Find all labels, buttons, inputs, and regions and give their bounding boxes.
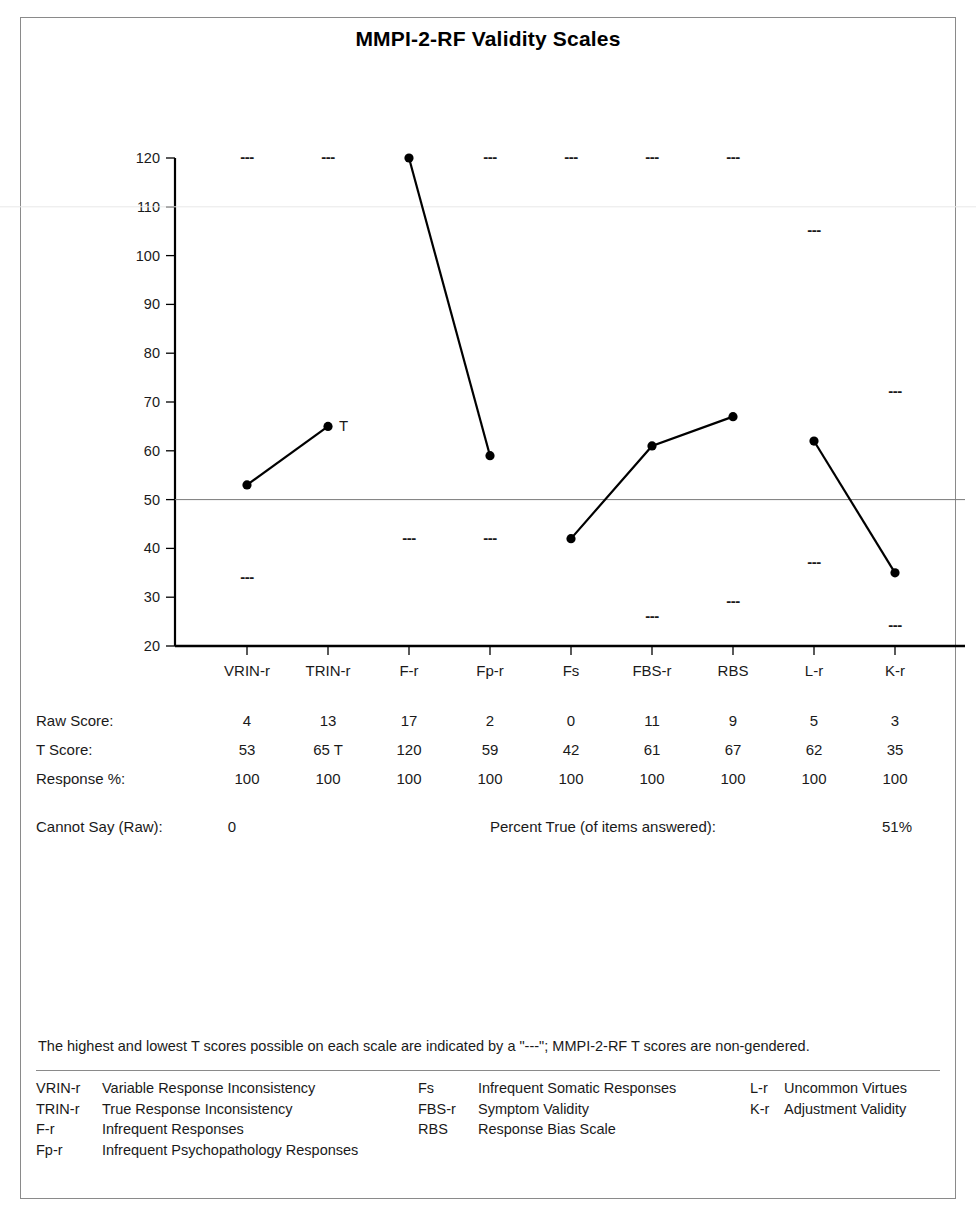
- table-cell: 61: [617, 741, 687, 758]
- x-axis-label: VRIN-r: [224, 662, 270, 679]
- row-label: Response %:: [36, 770, 125, 787]
- y-tick-label: 60: [144, 443, 160, 459]
- legend-abbreviation: L-r: [750, 1080, 768, 1096]
- cannot-say-value: 0: [212, 818, 252, 835]
- table-cell: 100: [293, 770, 363, 787]
- max-t-marker: ---: [240, 148, 254, 165]
- legend-description: True Response Inconsistency: [102, 1101, 292, 1117]
- legend-column-1: VRIN-rVariable Response InconsistencyTRI…: [36, 1080, 416, 1162]
- percent-true-value: 51%: [882, 818, 912, 835]
- x-axis-label: Fp-r: [476, 662, 504, 679]
- table-cell: 100: [779, 770, 849, 787]
- legend-description: Infrequent Responses: [102, 1121, 244, 1137]
- table-cell: 17: [374, 712, 444, 729]
- data-point: [728, 412, 737, 421]
- y-tick-label: 30: [144, 589, 160, 605]
- legend-item: Fp-rInfrequent Psychopathology Responses: [36, 1142, 416, 1163]
- legend-description: Variable Response Inconsistency: [102, 1080, 315, 1096]
- profile-segment: [409, 158, 490, 456]
- profile-segment: [814, 441, 895, 573]
- score-table: Raw Score:413172011953T Score:5365 T1205…: [36, 712, 942, 799]
- legend-abbreviation: RBS: [418, 1121, 448, 1137]
- legend-item: TRIN-rTrue Response Inconsistency: [36, 1101, 416, 1122]
- data-point: [404, 153, 413, 162]
- y-tick-label: 80: [144, 345, 160, 361]
- legend-abbreviation: Fp-r: [36, 1142, 63, 1158]
- x-axis-label: TRIN-r: [306, 662, 351, 679]
- y-axis: 2030405060708090100110120: [136, 150, 175, 654]
- table-cell: 5: [779, 712, 849, 729]
- legend-abbreviation: K-r: [750, 1101, 769, 1117]
- legend-description: Infrequent Somatic Responses: [478, 1080, 676, 1096]
- table-cell: 100: [455, 770, 525, 787]
- table-cell: 100: [212, 770, 282, 787]
- row-label: T Score:: [36, 741, 92, 758]
- chart-svg: 2030405060708090100110120 --------------…: [0, 0, 976, 700]
- cannot-say-label: Cannot Say (Raw):: [36, 818, 163, 835]
- legend-description: Infrequent Psychopathology Responses: [102, 1142, 358, 1158]
- x-axis: [175, 646, 965, 655]
- footnote-text: The highest and lowest T scores possible…: [38, 1038, 928, 1054]
- max-t-marker: ---: [321, 148, 335, 165]
- data-point: [809, 436, 818, 445]
- profile-segment: [247, 426, 328, 485]
- table-cell: 11: [617, 712, 687, 729]
- profile-segment: [571, 417, 733, 539]
- y-tick-label: 120: [136, 150, 160, 166]
- table-cell: 9: [698, 712, 768, 729]
- table-cell: 4: [212, 712, 282, 729]
- table-cell: 67: [698, 741, 768, 758]
- data-point: [242, 480, 251, 489]
- scale-abbreviation-legend: VRIN-rVariable Response InconsistencyTRI…: [36, 1080, 946, 1170]
- min-t-marker: ---: [483, 529, 497, 546]
- data-point: [566, 534, 575, 543]
- table-row: Raw Score:413172011953: [36, 712, 942, 741]
- legend-abbreviation: VRIN-r: [36, 1080, 80, 1096]
- data-point: [647, 441, 656, 450]
- point-annotation: T: [339, 417, 348, 434]
- data-point: [323, 422, 332, 431]
- max-t-marker: ---: [564, 148, 578, 165]
- legend-description: Adjustment Validity: [784, 1101, 906, 1117]
- table-cell: 2: [455, 712, 525, 729]
- legend-abbreviation: F-r: [36, 1121, 55, 1137]
- max-t-marker: ---: [483, 148, 497, 165]
- legend-abbreviation: TRIN-r: [36, 1101, 80, 1117]
- validity-scales-chart: 2030405060708090100110120 --------------…: [0, 0, 976, 700]
- table-cell: 59: [455, 741, 525, 758]
- legend-column-2: FsInfrequent Somatic ResponsesFBS-rSympt…: [418, 1080, 748, 1142]
- scale-name-labels: VRIN-rTRIN-rF-rFp-rFsFBS-rRBSL-rK-r: [224, 662, 905, 679]
- legend-abbreviation: FBS-r: [418, 1101, 456, 1117]
- legend-description: Uncommon Virtues: [784, 1080, 907, 1096]
- legend-item: F-rInfrequent Responses: [36, 1121, 416, 1142]
- min-t-marker: ---: [402, 529, 416, 546]
- max-t-marker: ---: [726, 148, 740, 165]
- legend-item: FBS-rSymptom Validity: [418, 1101, 748, 1122]
- y-tick-label: 20: [144, 638, 160, 654]
- t-score-profile-line: T: [242, 153, 899, 577]
- table-cell: 100: [698, 770, 768, 787]
- table-cell: 62: [779, 741, 849, 758]
- min-t-marker: ---: [726, 592, 740, 609]
- table-cell: 35: [860, 741, 930, 758]
- min-t-marker: ---: [888, 616, 902, 633]
- legend-item: L-rUncommon Virtues: [750, 1080, 960, 1101]
- legend-item: VRIN-rVariable Response Inconsistency: [36, 1080, 416, 1101]
- table-cell: 42: [536, 741, 606, 758]
- legend-item: RBSResponse Bias Scale: [418, 1121, 748, 1142]
- legend-item: K-rAdjustment Validity: [750, 1101, 960, 1122]
- table-cell: 120: [374, 741, 444, 758]
- y-tick-label: 50: [144, 492, 160, 508]
- legend-item: FsInfrequent Somatic Responses: [418, 1080, 748, 1101]
- max-t-marker: ---: [645, 148, 659, 165]
- data-point: [485, 451, 494, 460]
- x-axis-label: L-r: [805, 662, 823, 679]
- table-cell: 3: [860, 712, 930, 729]
- table-row: T Score:5365 T120594261676235: [36, 741, 942, 770]
- max-t-marker: ---: [888, 382, 902, 399]
- legend-column-3: L-rUncommon VirtuesK-rAdjustment Validit…: [750, 1080, 960, 1121]
- data-point: [890, 568, 899, 577]
- x-axis-label: RBS: [718, 662, 749, 679]
- table-cell: 100: [860, 770, 930, 787]
- percent-true-label: Percent True (of items answered):: [490, 818, 716, 835]
